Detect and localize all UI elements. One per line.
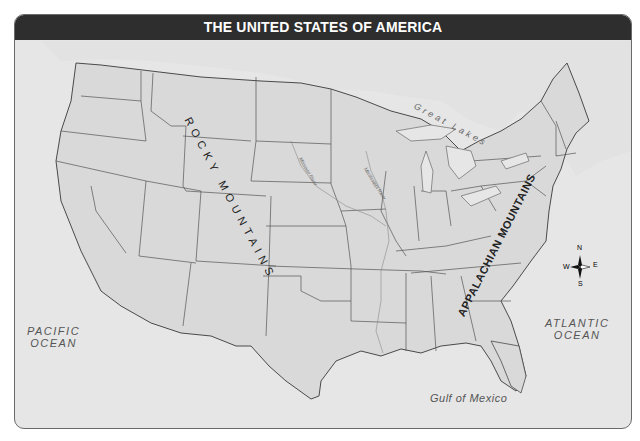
compass-s: S <box>578 280 583 287</box>
map-frame: THE UNITED STATES OF AMERICA PACIFIC OCE… <box>14 14 632 429</box>
atlantic-ocean-label: ATLANTIC OCEAN <box>545 317 609 341</box>
pacific-line2: OCEAN <box>27 337 80 349</box>
compass-e: E <box>593 261 598 268</box>
compass-w: W <box>563 263 570 270</box>
pacific-ocean-label: PACIFIC OCEAN <box>27 325 80 349</box>
compass-n: N <box>577 244 582 251</box>
pacific-line1: PACIFIC <box>27 325 80 337</box>
gulf-of-mexico-label: Gulf of Mexico <box>430 392 507 404</box>
atlantic-line2: OCEAN <box>545 329 609 341</box>
atlantic-line1: ATLANTIC <box>545 317 609 329</box>
compass-rose: N S W E <box>563 247 597 287</box>
us-map <box>15 15 631 428</box>
map-title: THE UNITED STATES OF AMERICA <box>15 15 631 40</box>
